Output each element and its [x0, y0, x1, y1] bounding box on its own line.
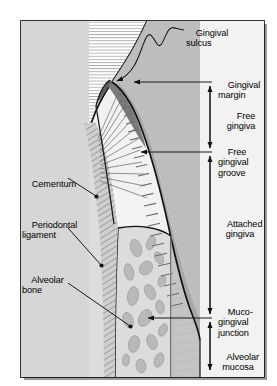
label-cementum: Cementum	[22, 169, 76, 200]
label-muco-gingival-junction: Muco- gingival junction	[218, 297, 253, 348]
label-gingival-sulcus: Gingival sulcus	[186, 18, 228, 59]
label-periodontal-ligament: Periodontal ligament	[22, 210, 77, 251]
periodontium-figure: Gingival sulcus Gingival margin Free gin…	[0, 0, 277, 386]
label-free-gingival-groove: Free gingival groove	[218, 137, 248, 188]
label-alveolar-mucosa: Alveolar mucosa	[209, 342, 267, 383]
label-attached-gingiva: Attached gingiva	[211, 209, 269, 250]
label-free-gingiva: Free gingiva	[215, 101, 267, 142]
label-alveolar-bone: Alveolar bone	[22, 265, 64, 306]
